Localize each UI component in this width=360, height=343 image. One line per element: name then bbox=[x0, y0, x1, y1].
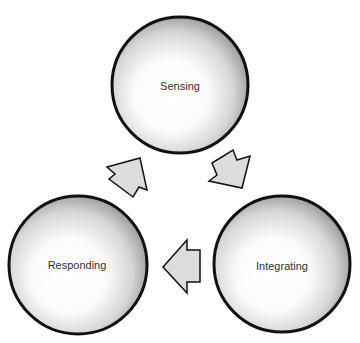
node-integrating-label: Integrating bbox=[256, 260, 308, 272]
arrow-responding-to-sensing-icon bbox=[107, 158, 147, 197]
node-responding-label: Responding bbox=[48, 259, 107, 271]
cycle-diagram bbox=[0, 0, 360, 343]
node-sensing-label: Sensing bbox=[160, 80, 200, 92]
arrow-integrating-to-responding-icon bbox=[163, 240, 200, 293]
arrow-sensing-to-integrating-icon bbox=[209, 150, 250, 188]
